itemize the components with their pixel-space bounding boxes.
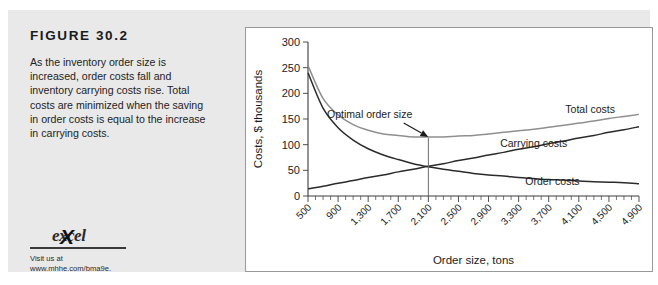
x-tick-label-1300: 1,300 [348,201,374,227]
x-tick-label-4100: 4,100 [559,201,585,227]
chart-box: 0501001502002503005009001,3001,7002,1002… [245,27,653,272]
excel-logo-x-glyph: X [60,225,74,249]
series-line-order-costs [308,73,639,184]
x-tick-label-900: 900 [324,201,344,221]
caption-column: FIGURE 30.2 As the inventory order size … [30,28,220,274]
x-tick-label-500: 500 [294,201,314,221]
x-axis-title: Order size, tons [433,254,514,266]
x-tick-label-2100: 2,100 [408,201,434,227]
figure-panel: FIGURE 30.2 As the inventory order size … [8,10,650,272]
annotation-arrow-line [404,123,422,133]
series-label-carrying-costs: Carrying costs [500,137,567,149]
y-tick-label-100: 100 [282,139,300,151]
figure-caption: As the inventory order size is increased… [30,55,212,140]
x-tick-label-4900: 4,900 [619,201,645,227]
figure-title: FIGURE 30.2 [30,28,220,43]
x-tick-label-3700: 3,700 [529,201,555,227]
y-tick-label-200: 200 [282,87,300,99]
y-tick-label-250: 250 [282,62,300,74]
x-tick-label-2900: 2,900 [468,201,494,227]
y-tick-label-0: 0 [294,190,300,202]
x-tick-label-3300: 3,300 [499,201,525,227]
x-tick-label-1700: 1,700 [378,201,404,227]
excel-logo: excel X [30,226,140,248]
y-tick-label-300: 300 [282,36,300,48]
x-tick-label-4500: 4,500 [589,201,615,227]
series-label-total-costs: Total costs [565,103,615,115]
annotation-optimal-order-size-label: Optimal order size [327,108,412,120]
series-line-total-costs [308,66,639,137]
excel-branding-block: excel X Visit us at www.mhhe.com/bma9e. [30,226,150,273]
y-tick-label-150: 150 [282,113,300,125]
x-tick-label-2500: 2,500 [438,201,464,227]
y-axis-title: Costs, $ thousands [252,70,264,169]
annotation-arrow-head [420,130,429,137]
website-url[interactable]: www.mhhe.com/bma9e. [30,264,150,274]
eoq-cost-chart: 0501001502002503005009001,3001,7002,1002… [246,28,651,270]
series-label-order-costs: Order costs [525,175,579,187]
y-tick-label-50: 50 [288,164,300,176]
excel-logo-rule [30,247,126,249]
visit-us-label: Visit us at [30,254,150,264]
